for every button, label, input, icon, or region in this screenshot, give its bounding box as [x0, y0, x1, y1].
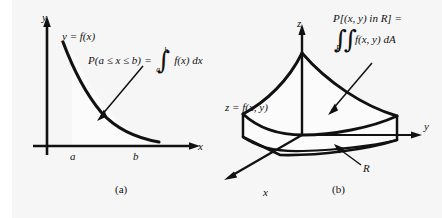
panel-b-x-axis-label: x: [263, 186, 268, 198]
panel-a-formula-equals: =: [143, 54, 153, 66]
panel-b-surface-label: z = f(x, y): [225, 102, 268, 113]
panel-a-integral-lower-limit: a: [156, 65, 160, 74]
panel-a-x-axis-label: x: [198, 140, 203, 152]
panel-b-z-axis-label: z: [297, 17, 301, 29]
surface-sheet: [243, 53, 397, 135]
panel-b-double-integral-symbol-group: ∫∫ R: [334, 26, 355, 52]
panel-b-integral-subscript: R: [336, 44, 341, 53]
panel-b-y-axis-label: y: [424, 120, 429, 132]
panel-a-formula-lhs: P(a ≤ x ≤ b): [88, 54, 141, 66]
panel-b-integrand: f(x, y) dA: [355, 33, 396, 45]
panel-a-probability-formula: P(a ≤ x ≤ b) = b ∫ a f(x) dx: [88, 47, 203, 73]
panel-a-integrand: f(x) dx: [172, 54, 202, 66]
panel-a-integral-symbol-group: b ∫ a: [155, 47, 170, 73]
panel-b-formula-lhs: P[(x, y) in R] =: [333, 12, 402, 24]
figure-container: y x y = f(x) a b P(a ≤ x ≤ b) = b ∫ a f(…: [0, 0, 442, 218]
panel-a-y-axis-label: y: [42, 11, 47, 23]
formula-pointer-arrow-line: [101, 66, 143, 116]
panel-b-formula-rhs: ∫∫ R f(x, y) dA: [334, 26, 402, 52]
y-axis-arrowhead-3d: [411, 131, 422, 138]
panel-a-tick-label-b: b: [133, 150, 139, 162]
panel-a: [0, 0, 221, 218]
panel-b-caption: (b): [332, 183, 345, 195]
panel-a-caption: (a): [115, 183, 127, 195]
panel-a-tick-label-a: a: [70, 150, 76, 162]
panel-a-graphics: [0, 0, 221, 218]
panel-b-region-label: R: [363, 163, 370, 174]
panel-b-probability-formula: P[(x, y) in R] = ∫∫ R f(x, y) dA: [333, 12, 402, 52]
panel-a-curve-label: y = f(x): [62, 31, 95, 42]
